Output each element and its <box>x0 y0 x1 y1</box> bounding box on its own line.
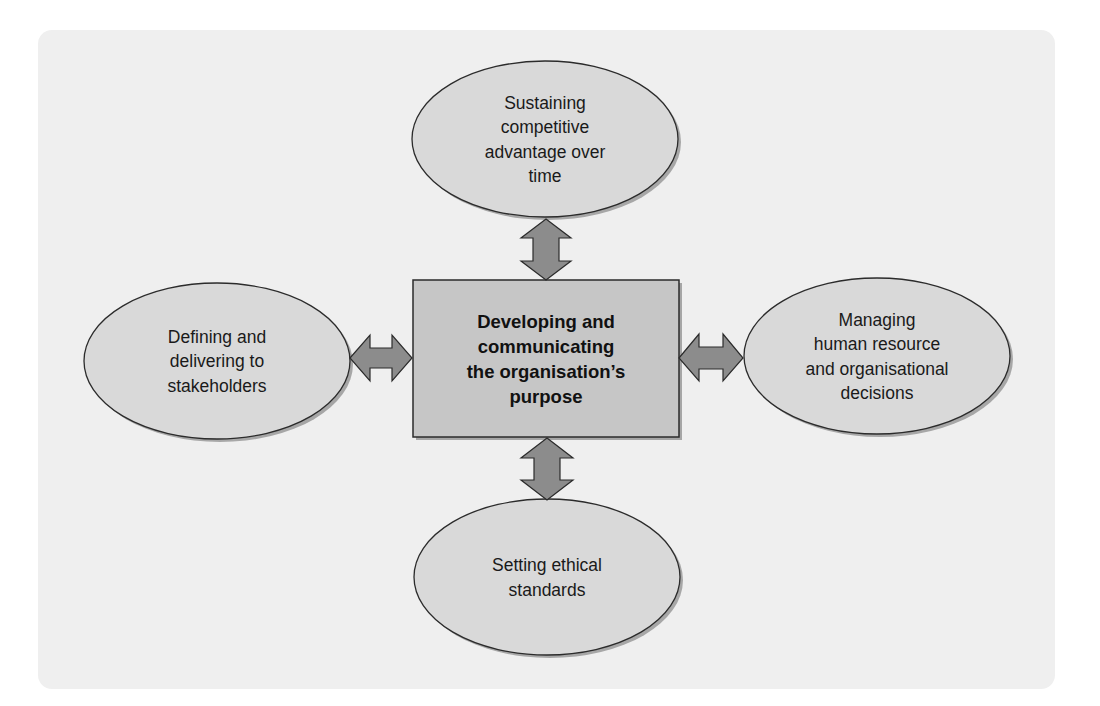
node-label-left: Defining and delivering to stakeholders <box>84 283 350 440</box>
node-label-top: Sustaining competitive advantage over ti… <box>412 61 678 218</box>
double-arrow-left-icon <box>350 335 412 381</box>
double-arrow-bottom-icon <box>521 438 573 500</box>
node-label-bottom: Setting ethical standards <box>414 499 680 656</box>
node-label-right: Managing human resource and organisation… <box>744 278 1010 435</box>
double-arrow-right-icon <box>679 334 743 381</box>
center-label: Developing and communicating the organis… <box>413 280 679 437</box>
double-arrow-top-icon <box>521 219 571 280</box>
